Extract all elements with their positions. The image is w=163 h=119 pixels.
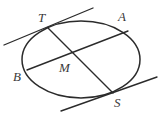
point-label-s: S — [114, 96, 121, 109]
point-label-b: B — [13, 70, 21, 83]
chord-b-a — [27, 31, 128, 70]
chord-t-s — [48, 28, 113, 93]
tangent-line-at-t — [4, 8, 93, 45]
geometry-figure: T A B M S — [0, 0, 163, 119]
point-label-m: M — [59, 61, 70, 74]
tangent-line-at-s — [61, 77, 157, 111]
point-label-a: A — [118, 10, 126, 23]
geometry-canvas — [0, 0, 163, 119]
point-label-t: T — [38, 11, 45, 24]
